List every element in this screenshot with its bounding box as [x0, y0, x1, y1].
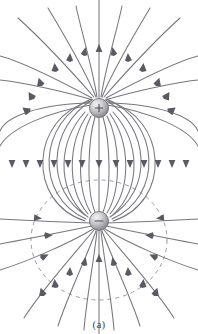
field-line-canvas [0, 0, 198, 334]
field-line-loop [106, 100, 141, 217]
field-line-escape [104, 18, 180, 97]
field-line-loop [57, 100, 92, 217]
field-line-escape [0, 80, 93, 100]
figure-electric-dipole-field: (a) [0, 0, 198, 334]
negative-charge [90, 212, 109, 231]
field-line-escape [105, 80, 198, 100]
field-line-escape [106, 56, 198, 98]
field-line-outer [0, 105, 91, 146]
field-line-escape [48, 8, 96, 97]
field-line-enter [0, 219, 91, 223]
field-line-escape [102, 8, 150, 97]
field-line-enter [107, 219, 198, 223]
field-line-loop [89, 117, 95, 212]
figure-caption: (a) [0, 318, 198, 330]
field-line-escape [0, 56, 92, 98]
arrow-row-midplane [9, 160, 190, 168]
positive-charge [90, 99, 109, 118]
field-line-outer [107, 105, 198, 146]
field-line-loop [103, 117, 109, 212]
field-line-enter [24, 230, 94, 318]
field-line-escape [18, 18, 94, 97]
field-line-enter [104, 230, 174, 318]
